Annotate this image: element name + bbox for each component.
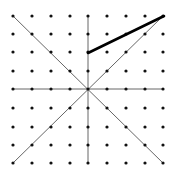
grid-dot [161,106,164,109]
grid-dot [11,143,14,146]
grid-dot [86,106,89,109]
grid-dot [49,125,52,128]
grid-dot [68,69,71,72]
grid-dot [86,161,89,164]
grid-dot [143,69,146,72]
grid-dot [68,87,71,90]
grid-dot [143,32,146,35]
grid-dot [143,14,146,17]
grid-dot [124,69,127,72]
grid-dot [30,50,33,53]
grid-dot [161,161,164,164]
grid-dot [30,14,33,17]
grid-dot [30,69,33,72]
grid-dot [11,161,14,164]
grid-dot [49,161,52,164]
grid-dot [86,69,89,72]
grid-dot [86,125,89,128]
grid-dot [105,87,108,90]
grid-dot [143,50,146,53]
grid-dot [68,32,71,35]
grid-dot [124,87,127,90]
grid-dot [105,32,108,35]
grid-dot [124,106,127,109]
grid-dot [161,50,164,53]
grid-dot [68,143,71,146]
grid-dot [105,125,108,128]
grid-dot [49,87,52,90]
grid-dot [86,14,89,17]
grid-dot [49,32,52,35]
thick-lines-group [88,16,164,53]
grid-dot [105,50,108,53]
grid-dot [30,143,33,146]
grid-dot [105,161,108,164]
grid-dot [11,87,14,90]
grid-dot [68,106,71,109]
grid-dot [143,87,146,90]
dot-grid-diagram [0,0,175,173]
grid-dot [11,106,14,109]
grid-dot [68,125,71,128]
grid-dot [86,143,89,146]
grid-dot [86,32,89,35]
grid-dot [161,32,164,35]
grid-dot [68,161,71,164]
grid-dot [49,69,52,72]
grid-dot [49,143,52,146]
grid-dot [49,106,52,109]
grid-dot [143,143,146,146]
grid-dot [68,50,71,53]
grid-dot [143,106,146,109]
grid-dot [49,14,52,17]
grid-dot [30,106,33,109]
grid-dot [30,125,33,128]
grid-dot [30,161,33,164]
grid-dot [124,14,127,17]
grid-dot [30,32,33,35]
grid-dot [124,161,127,164]
grid-dot [30,87,33,90]
grid-dot [105,106,108,109]
grid-dot [11,69,14,72]
grid-dot [124,125,127,128]
grid-dot [68,14,71,17]
grid-dot [161,143,164,146]
grid-dot [161,87,164,90]
grid-dot [86,87,89,90]
grid-dot [105,143,108,146]
grid-dot [49,50,52,53]
grid-dot [11,50,14,53]
grid-dot [11,14,14,17]
grid-dot [161,69,164,72]
grid-dot [124,50,127,53]
grid-dot [143,125,146,128]
grid-dot [161,125,164,128]
grid-dot [105,14,108,17]
grid-dot [124,143,127,146]
grid-dot [11,125,14,128]
grid-dot [11,32,14,35]
thick-line-segment [88,16,164,53]
grid-dot [143,161,146,164]
grid-dot [105,69,108,72]
